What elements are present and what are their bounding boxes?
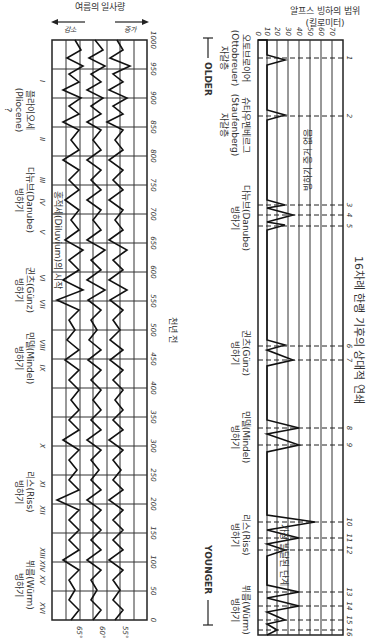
svg-text:200: 200 (149, 497, 157, 511)
svg-text:IV: IV (38, 199, 46, 207)
svg-text:빙하기: 빙하기 (230, 206, 240, 230)
svg-text:300: 300 (149, 439, 157, 453)
svg-text:민델(Mindel): 민델(Mindel) (241, 411, 252, 464)
younger-arrow: YOUNGER (203, 544, 213, 625)
svg-text:950: 950 (149, 62, 157, 76)
bottom-x-ticks: 1000 950 900 850 800 750 700 650 600 550… (149, 31, 157, 623)
svg-text:빙하기: 빙하기 (230, 425, 240, 449)
svg-text:750: 750 (149, 178, 157, 192)
svg-text:850: 850 (149, 120, 157, 134)
svg-text:10: 10 (345, 518, 353, 527)
decrease-label: 감소 (64, 26, 77, 34)
top-gap-annotation: 빙하기 증거 없음 (303, 129, 313, 191)
svg-text:플라이오세: 플라이오세 (25, 90, 35, 130)
svg-text:8: 8 (345, 426, 353, 431)
svg-text:XIII: XIII (38, 547, 46, 559)
svg-text:700: 700 (149, 207, 157, 221)
insolation-label: 여름의 일사량 (75, 1, 126, 12)
svg-text:다뉴브(Danube): 다뉴브(Danube) (241, 185, 251, 251)
svg-text:2: 2 (345, 114, 353, 119)
bottom-xlabel: 천년 전 (168, 317, 178, 344)
svg-text:XV: XV (38, 574, 46, 586)
svg-text:10: 10 (263, 27, 271, 36)
svg-text:리스(Riss): 리스(Riss) (25, 471, 35, 512)
svg-text:귄츠(Günz): 귄츠(Günz) (25, 267, 36, 313)
svg-text:14: 14 (345, 602, 353, 611)
svg-text:4: 4 (345, 213, 353, 217)
top-chart: 16차례 한랭 기후의 상대적 연쇄 알프스 빙하의 범위 (킬로미터) 0 1… (203, 6, 365, 637)
svg-text:6: 6 (345, 344, 353, 349)
svg-text:60: 60 (317, 27, 325, 36)
top-ylabel-1: 알프스 빙하의 범위 (290, 6, 360, 16)
svg-text:60°: 60° (98, 626, 106, 638)
svg-text:30: 30 (284, 27, 292, 36)
svg-text:20: 20 (273, 27, 281, 36)
svg-text:50: 50 (306, 27, 314, 36)
svg-text:350: 350 (149, 410, 157, 424)
svg-text:VIII: VIII (38, 340, 46, 351)
svg-text:슈타우펜베르그: 슈타우펜베르그 (241, 97, 251, 153)
svg-text:800: 800 (149, 149, 157, 163)
svg-text:400: 400 (149, 381, 157, 395)
svg-text:리스(Riss): 리스(Riss) (241, 514, 251, 555)
svg-text:(Ottobreuer): (Ottobreuer) (230, 30, 240, 86)
svg-text:민델(Mindel): 민델(Mindel) (25, 332, 36, 385)
svg-text:빙하기: 빙하기 (14, 346, 24, 370)
bottom-chart: 천년 전 1000 950 900 850 800 750 700 650 60… (3, 1, 178, 638)
svg-text:자갈층: 자갈층 (219, 46, 229, 70)
svg-text:XI: XI (38, 480, 46, 488)
svg-text:II: II (38, 137, 46, 141)
top-peak-annotation: 가장 발달된 단계 (279, 524, 290, 586)
svg-text:150: 150 (149, 526, 157, 540)
svg-text:70: 70 (328, 27, 336, 36)
svg-text:?: ? (3, 108, 13, 113)
svg-text:(Staufenberg): (Staufenberg) (230, 94, 240, 156)
svg-text:250: 250 (149, 468, 157, 482)
svg-text:III: III (38, 177, 46, 183)
series-labels: 55° 60° 65° (75, 626, 129, 638)
svg-text:100: 100 (149, 555, 157, 569)
svg-text:(Pliocene): (Pliocene) (14, 88, 24, 133)
top-peak-dashes (258, 58, 343, 630)
svg-text:11: 11 (345, 534, 353, 543)
svg-text:뷔름(Würm): 뷔름(Würm) (241, 585, 251, 635)
svg-text:오토브로이어: 오토브로이어 (241, 34, 251, 82)
svg-text:7: 7 (345, 358, 353, 363)
bottom-epoch-labels: 플라이오세 (Pliocene) ? 다뉴브(Danube) 빙하기 귄츠(Gü… (3, 88, 36, 610)
svg-text:귄츠(Günz): 귄츠(Günz) (241, 330, 252, 376)
svg-text:600: 600 (149, 265, 157, 279)
svg-text:0: 0 (254, 32, 262, 37)
svg-text:XII: XII (38, 505, 46, 515)
svg-text:12: 12 (345, 546, 353, 555)
svg-text:550: 550 (149, 294, 157, 308)
svg-text:50: 50 (149, 587, 157, 596)
svg-text:40: 40 (295, 27, 303, 36)
svg-text:13: 13 (345, 588, 353, 597)
svg-text:650: 650 (149, 236, 157, 250)
svg-text:I: I (38, 80, 46, 82)
svg-text:IX: IX (38, 365, 46, 372)
svg-text:450: 450 (149, 352, 157, 366)
svg-text:VI: VI (38, 275, 46, 282)
svg-text:9: 9 (345, 443, 353, 448)
svg-text:뷔름(Würm): 뷔름(Würm) (25, 560, 35, 610)
top-stage-labels: 오토브로이어 (Ottobreuer) 자갈층 슈타우펜베르그 (Staufen… (219, 30, 252, 635)
svg-text:55°: 55° (121, 626, 129, 638)
svg-text:16: 16 (345, 628, 353, 637)
svg-text:XIV: XIV (38, 559, 46, 573)
svg-text:다뉴브(Danube): 다뉴브(Danube) (25, 167, 35, 233)
svg-text:V: V (38, 230, 46, 236)
svg-text:1000: 1000 (149, 31, 157, 49)
top-y-ticks: 0 10 20 30 40 50 60 70 (254, 27, 336, 36)
svg-text:3: 3 (345, 203, 353, 207)
rotated-figure: 16차례 한랭 기후의 상대적 연쇄 알프스 빙하의 범위 (킬로미터) 0 1… (0, 0, 385, 642)
svg-text:빙하기: 빙하기 (14, 278, 24, 302)
svg-text:5: 5 (345, 224, 353, 229)
svg-text:XVI: XVI (38, 601, 46, 614)
svg-text:빙하기: 빙하기 (14, 480, 24, 504)
svg-text:빙하기: 빙하기 (230, 598, 240, 622)
svg-text:0: 0 (149, 618, 157, 623)
younger-label: YOUNGER (203, 544, 213, 594)
figure-svg: 16차례 한랭 기후의 상대적 연쇄 알프스 빙하의 범위 (킬로미터) 0 1… (0, 0, 385, 642)
bottom-gridlines (52, 40, 147, 620)
